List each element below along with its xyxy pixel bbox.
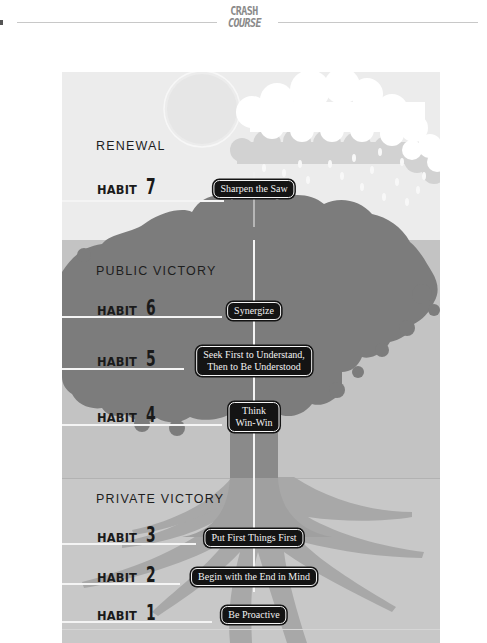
habit-6-label: HABIT 6 xyxy=(96,299,160,317)
habit-number: 2 xyxy=(146,566,156,584)
habit-1-label: HABIT 1 xyxy=(96,604,160,622)
habit-4-badge-line-2: Win-Win xyxy=(236,417,273,429)
habit-3-label: HABIT 3 xyxy=(96,526,160,544)
habit-word: HABIT xyxy=(97,572,137,584)
habit-2-badge: Begin with the End in Mind xyxy=(191,568,317,586)
sun-icon xyxy=(164,72,240,147)
habit-number: 1 xyxy=(146,604,156,622)
habit-5-badge-line-2: Then to Be Understood xyxy=(203,361,305,373)
crash-course-logo: CRASH COURSE xyxy=(228,5,260,30)
habit-word: HABIT xyxy=(97,356,137,368)
habit-5-label: HABIT 5 xyxy=(96,350,160,368)
seven-habits-diagram: RENEWAL PUBLIC VICTORY PRIVATE VICTORY H… xyxy=(62,72,440,643)
habit-7-label: HABIT 7 xyxy=(96,178,160,196)
header-rule-right xyxy=(278,22,478,23)
header-bullet xyxy=(0,20,3,25)
habit-number: 3 xyxy=(146,526,156,544)
habit-number: 4 xyxy=(146,406,156,424)
header-rule-left xyxy=(17,22,217,23)
section-title-renewal: RENEWAL xyxy=(96,139,166,153)
habit-word: HABIT xyxy=(97,532,137,544)
habit-number: 5 xyxy=(146,350,156,368)
habit-number: 6 xyxy=(146,299,156,317)
section-title-private-victory: PRIVATE VICTORY xyxy=(96,492,224,506)
habit-4-connector xyxy=(62,424,222,426)
habit-3-badge: Put First Things First xyxy=(204,529,303,547)
habit-7-connector xyxy=(62,200,224,202)
habit-word: HABIT xyxy=(97,184,137,196)
logo-line-2: COURSE xyxy=(228,17,260,30)
habit-6-badge: Synergize xyxy=(227,302,281,320)
habit-4-label: HABIT 4 xyxy=(96,406,160,424)
habit-1-badge: Be Proactive xyxy=(221,606,286,624)
habit-word: HABIT xyxy=(97,412,137,424)
habit-5-badge: Seek First to Understand, Then to Be Und… xyxy=(196,346,312,376)
habit-number: 7 xyxy=(146,178,156,196)
bottom-divider xyxy=(62,629,440,630)
section-title-public-victory: PUBLIC VICTORY xyxy=(96,264,217,278)
habit-4-badge-line-1: Think xyxy=(236,405,273,417)
habit-word: HABIT xyxy=(97,610,137,622)
habit-5-badge-line-1: Seek First to Understand, xyxy=(203,349,305,361)
habit-word: HABIT xyxy=(97,305,137,317)
habit-2-label: HABIT 2 xyxy=(96,566,160,584)
habit-7-badge: Sharpen the Saw xyxy=(213,180,294,198)
habit-4-badge: Think Win-Win xyxy=(229,402,280,432)
